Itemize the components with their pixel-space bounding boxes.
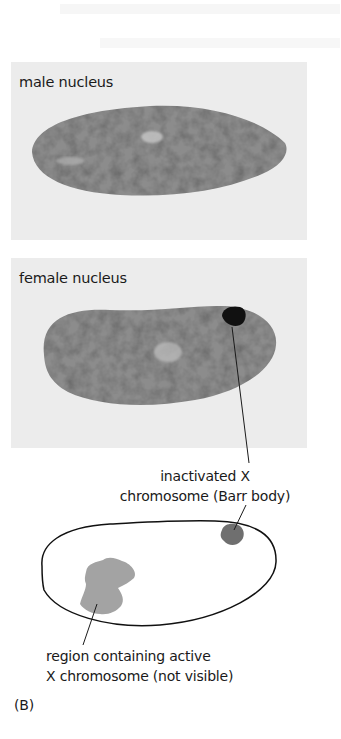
active-x-region: [80, 558, 135, 614]
barr-body-label: inactivated X chromosome (Barr body): [100, 466, 310, 506]
panel-letter: (B): [14, 695, 34, 715]
barr-body-label-line1: inactivated X: [100, 466, 310, 486]
barr-body-schematic: [221, 524, 244, 545]
active-region-label: region containing active X chromosome (n…: [46, 646, 233, 686]
active-region-label-line2: X chromosome (not visible): [46, 666, 233, 686]
diagram-graphics: [0, 0, 341, 739]
female-nucleus-image: [44, 306, 276, 405]
schematic-nucleus: [42, 521, 276, 626]
barr-body-label-line2: chromosome (Barr body): [100, 486, 310, 506]
male-nucleus-image: [32, 106, 287, 196]
active-region-label-line1: region containing active: [46, 646, 233, 666]
